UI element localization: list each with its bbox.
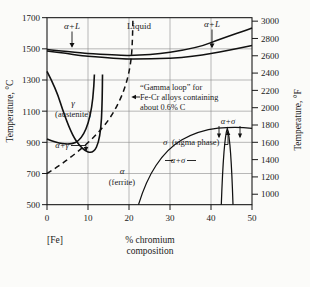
left-tick-1500: 1500 <box>22 44 41 54</box>
label-alpha-plus-gamma: α+γ <box>55 140 69 150</box>
right-tick-1200: 1200 <box>261 172 280 182</box>
left-tick-700: 700 <box>27 169 41 179</box>
label-alpha-plus-liquid-left: α+L <box>64 21 80 31</box>
left-tick-900: 900 <box>27 138 41 148</box>
label-alpha-plus-sigma-right: α+σ <box>221 116 236 126</box>
label-sigma-phase: (sigma phase) <box>172 137 220 147</box>
left-tick-1700: 1700 <box>22 13 41 23</box>
right-tick-1000: 1000 <box>261 189 280 199</box>
label-alpha-plus-liquid-right: α+L <box>204 19 220 29</box>
x-tick-10: 10 <box>84 213 94 223</box>
right-tick-3000: 3000 <box>261 16 280 26</box>
right-tick-1600: 1600 <box>261 138 280 148</box>
label-gamma: γ <box>71 98 75 108</box>
right-tick-2400: 2400 <box>261 68 280 78</box>
right-tick-1800: 1800 <box>261 120 280 130</box>
x-tick-50: 50 <box>248 213 258 223</box>
annotation-line-3: about 0.6% C <box>140 103 186 112</box>
phase-diagram-svg: 1700 1500 1300 1100 900 700 500 Temperat… <box>0 0 310 287</box>
x-tick-30: 30 <box>166 213 176 223</box>
label-alpha-plus-sigma-left: α+σ <box>171 155 186 165</box>
right-tick-2000: 2000 <box>261 103 280 113</box>
label-liquid: Liquid <box>127 21 151 31</box>
right-tick-2800: 2800 <box>261 34 280 44</box>
x-axis-title-line2: composition <box>127 246 174 256</box>
label-austenite: (austenite) <box>55 109 91 119</box>
left-tick-1300: 1300 <box>22 75 41 85</box>
annotation-line-1: “Gamma loop” for <box>140 83 202 92</box>
right-tick-2200: 2200 <box>261 86 280 96</box>
fe-endpoint-label: [Fe] <box>47 235 63 245</box>
x-tick-40: 40 <box>207 213 217 223</box>
label-ferrite: (ferrite) <box>109 177 136 187</box>
annotation-line-2: Fe-Cr alloys containing <box>140 93 218 102</box>
x-tick-0: 0 <box>45 213 50 223</box>
right-tick-2600: 2600 <box>261 51 280 61</box>
left-tick-1100: 1100 <box>22 107 40 117</box>
x-tick-20: 20 <box>125 213 135 223</box>
right-tick-1400: 1400 <box>261 155 280 165</box>
label-alpha: α <box>120 166 125 176</box>
label-sigma: σ <box>163 137 168 147</box>
y-axis-right-title: Temperature, °F <box>293 89 303 151</box>
y-axis-left-title: Temperature, °C <box>5 80 15 143</box>
phase-diagram-figure: 1700 1500 1300 1100 900 700 500 Temperat… <box>0 0 310 287</box>
x-axis-title-line1: % chromium <box>125 235 175 245</box>
left-tick-500: 500 <box>27 200 41 210</box>
